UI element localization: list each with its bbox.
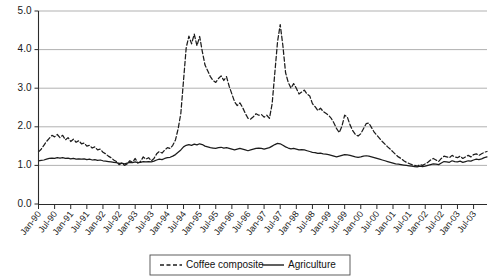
y-tick-label: 0.0 [18, 198, 32, 209]
x-axis-tick-labels: Jan-90Jul-90Jan-91Jul-91Jan-92Jul-92Jan-… [18, 209, 478, 237]
y-tick-label: 5.0 [18, 5, 32, 16]
chart-legend: Coffee compositeAgriculture [150, 255, 350, 275]
y-tick-label: 1.0 [18, 159, 32, 170]
y-tick-label: 2.0 [18, 120, 32, 131]
y-tick-label: 3.0 [18, 82, 32, 93]
series-line-coffee-composite [39, 25, 488, 167]
data-series-group [39, 25, 488, 167]
y-tick-label: 4.0 [18, 43, 32, 54]
gridlines [39, 11, 488, 165]
legend-label-coffee-composite: Coffee composite [186, 259, 264, 270]
chart-container: 0.01.02.03.04.05.0 Jan-90Jul-90Jan-91Jul… [0, 0, 493, 279]
series-line-agriculture [39, 143, 488, 167]
line-chart: 0.01.02.03.04.05.0 Jan-90Jul-90Jan-91Jul… [0, 0, 493, 279]
y-axis-tick-marks [35, 11, 39, 204]
legend-label-agriculture: Agriculture [288, 259, 336, 270]
y-axis-tick-labels: 0.01.02.03.04.05.0 [18, 5, 32, 209]
